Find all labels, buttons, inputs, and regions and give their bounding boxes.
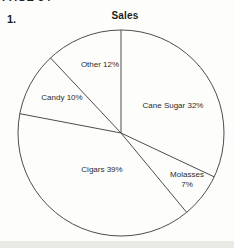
slice-label-cigars: Cigars 39% [81,165,122,175]
pie-chart [0,0,234,248]
slice-label-other: Other 12% [81,60,119,70]
slice-label-molasses: Molasses 7% [170,170,204,189]
page-edge-artifact [0,241,234,248]
worksheet-page: PAGE 54 1. Sales Cane Sugar 32% Molasses… [0,0,234,248]
slice-label-candy: Candy 10% [41,93,82,103]
slice-label-cane-sugar: Cane Sugar 32% [143,101,204,111]
